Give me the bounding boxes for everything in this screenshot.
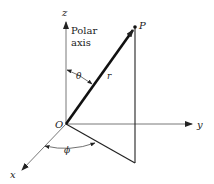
phi-label: ϕ [64,145,70,155]
y-axis-label: y [196,119,203,130]
x-axis-label: x [10,169,16,180]
point-p-label: P [138,20,146,31]
theta-label: θ [76,71,82,81]
z-axis-label: z [61,7,68,18]
point-p [133,25,137,29]
radius-label: r [107,71,112,81]
origin-label: O [55,119,63,130]
x-axis [22,124,66,170]
projection-line [66,124,135,163]
polar-axis-label-line2: axis [71,37,91,48]
spherical-coordinates-diagram: z Polar axis P θ r O ϕ y x [0,0,214,184]
polar-axis-label-line1: Polar [71,25,98,36]
